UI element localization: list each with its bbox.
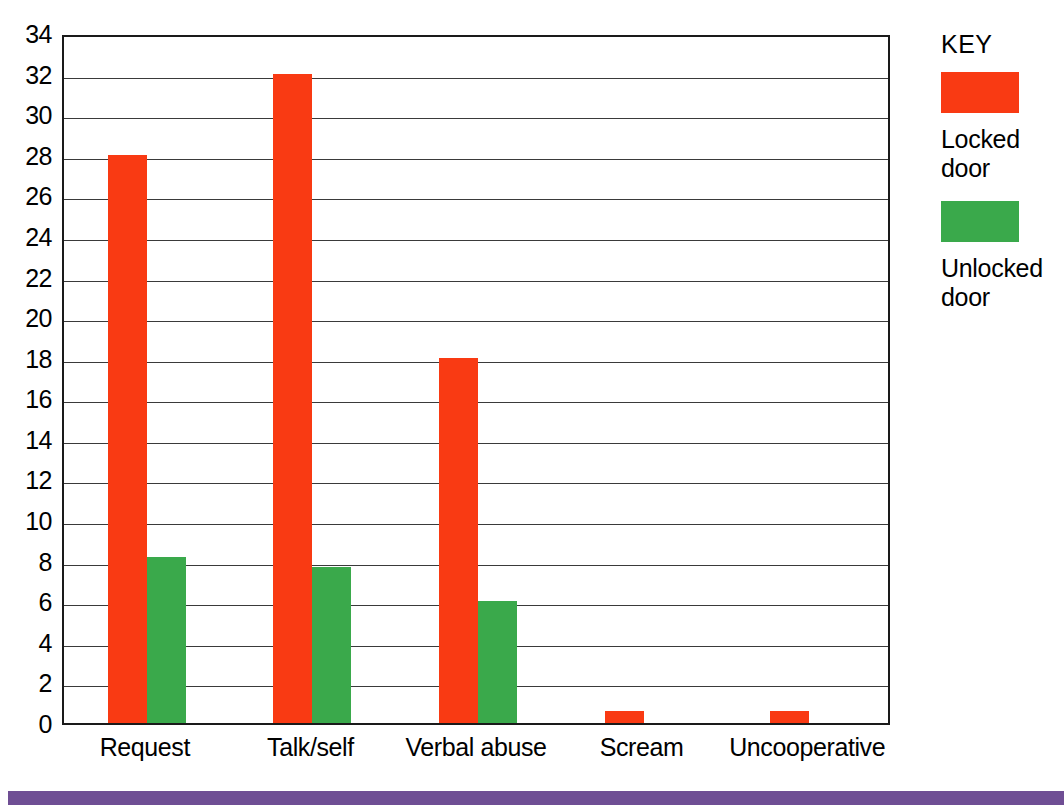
chart-legend: KEY Locked door Unlocked door (941, 30, 1061, 330)
y-tick-label: 30 (6, 103, 52, 128)
gridline (64, 199, 888, 200)
legend-item-unlocked-door: Unlocked door (941, 201, 1061, 312)
y-tick-label: 32 (6, 63, 52, 88)
legend-title: KEY (941, 30, 1061, 58)
bar (147, 557, 186, 723)
y-tick-label: 12 (6, 468, 52, 493)
legend-label-line-1: Unlocked (941, 254, 1061, 283)
gridline (64, 443, 888, 444)
y-axis: 3432302826242220181614121086420 (0, 35, 52, 725)
bar-chart-figure: 3432302826242220181614121086420 RequestT… (0, 0, 1064, 805)
y-tick-label: 6 (6, 590, 52, 615)
legend-label-line-2: door (941, 154, 1061, 183)
y-tick-label: 24 (6, 225, 52, 250)
gridline (64, 402, 888, 403)
gridline (64, 78, 888, 79)
y-tick-label: 2 (6, 671, 52, 696)
y-tick-label: 34 (6, 22, 52, 47)
legend-item-locked-door: Locked door (941, 72, 1061, 183)
bar (605, 711, 644, 723)
legend-label-unlocked-door: Unlocked door (941, 254, 1061, 312)
bar (478, 601, 517, 723)
plot-area (62, 35, 890, 725)
x-tick-label: Verbal abuse (405, 732, 546, 762)
gridline (64, 565, 888, 566)
gridline (64, 646, 888, 647)
gridline (64, 524, 888, 525)
gridline (64, 321, 888, 322)
gridline (64, 240, 888, 241)
bar (770, 711, 809, 723)
y-tick-label: 14 (6, 428, 52, 453)
legend-label-locked-door: Locked door (941, 125, 1061, 183)
gridline (64, 362, 888, 363)
bar (439, 358, 478, 723)
legend-label-line-2: door (941, 283, 1061, 312)
unlocked-door-swatch (941, 201, 1019, 242)
y-tick-label: 28 (6, 144, 52, 169)
x-tick-label: Talk/self (267, 732, 354, 762)
gridline (64, 605, 888, 606)
x-axis: RequestTalk/selfVerbal abuseScreamUncoop… (62, 732, 890, 774)
y-tick-label: 0 (6, 712, 52, 737)
gridline (64, 281, 888, 282)
y-tick-label: 10 (6, 509, 52, 534)
gridline (64, 118, 888, 119)
gridline (64, 159, 888, 160)
bar (273, 74, 312, 723)
x-tick-label: Request (100, 732, 190, 762)
gridline (64, 483, 888, 484)
locked-door-swatch (941, 72, 1019, 113)
y-tick-label: 16 (6, 387, 52, 412)
y-tick-label: 4 (6, 631, 52, 656)
y-tick-label: 20 (6, 306, 52, 331)
y-tick-label: 8 (6, 550, 52, 575)
legend-label-line-1: Locked (941, 125, 1061, 154)
bars-layer (64, 37, 888, 723)
gridline (64, 686, 888, 687)
x-tick-label: Scream (600, 732, 684, 762)
y-tick-label: 18 (6, 347, 52, 372)
y-tick-label: 26 (6, 184, 52, 209)
y-tick-label: 22 (6, 266, 52, 291)
x-tick-label: Uncooperative (729, 732, 885, 762)
bottom-accent-band (8, 791, 1064, 805)
